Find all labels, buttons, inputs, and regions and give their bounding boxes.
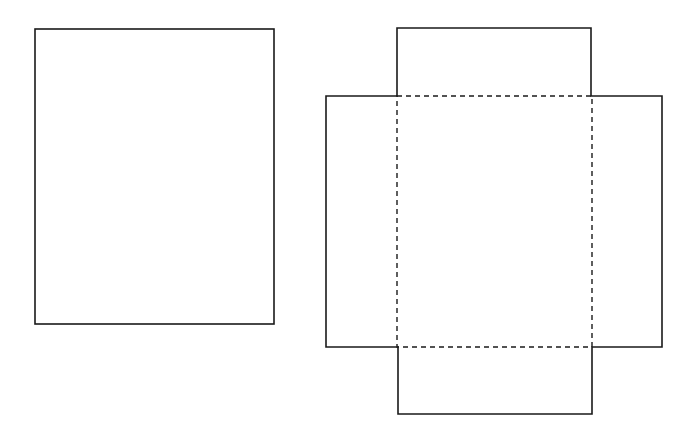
box-net [326, 28, 662, 414]
net-outline [326, 28, 662, 414]
diagram-canvas [0, 0, 696, 436]
fold-lines-base [397, 96, 592, 347]
plain-rectangle [35, 29, 274, 324]
